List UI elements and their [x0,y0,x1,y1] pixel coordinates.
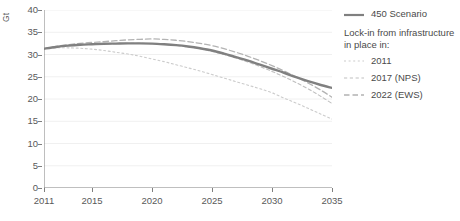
y-tick-mark [38,144,42,145]
y-tick-label: 40 [27,5,38,15]
y-tick-mark [38,99,42,100]
x-tick-mark [152,188,153,192]
x-axis-tick-labels: 201120152020202520302035 [44,193,332,209]
x-tick-label: 2030 [261,196,282,206]
legend-label: 2011 [371,56,391,67]
plot-area [44,10,332,188]
x-tick-label: 2011 [34,196,54,206]
chart-legend: 450 Scenario Lock-in from infrastructure… [344,6,460,104]
legend-item-2011[interactable]: 2011 [344,53,460,70]
emissions-line-chart: Gt 0510152025303540 20112015202020252030… [0,0,460,221]
x-tick-mark [272,188,273,192]
x-tick-label: 2035 [321,196,342,206]
x-tick-label: 2025 [201,196,222,206]
legend-item-2017-nps[interactable]: 2017 (NPS) [344,70,460,87]
y-tick-mark [38,32,42,33]
legend-label: 2022 (EWS) [371,90,423,101]
legend-item-450-scenario[interactable]: 450 Scenario [344,6,460,23]
legend-item-2022-ews[interactable]: 2022 (EWS) [344,87,460,104]
y-tick-mark [38,77,42,78]
legend-heading: Lock-in from infrastructure in place in: [344,27,456,51]
y-tick-mark [38,166,42,167]
legend-label: 2017 (NPS) [371,73,421,84]
legend-lockin-items: 20112017 (NPS)2022 (EWS) [344,53,460,104]
x-tick-label: 2015 [81,196,102,206]
y-tick-label: 15 [27,116,38,126]
legend-label-450-scenario: 450 Scenario [371,9,427,20]
x-tick-mark [92,188,93,192]
x-tick-mark [44,188,45,192]
y-tick-mark [38,121,42,122]
y-axis-tick-labels: 0510152025303540 [0,0,38,221]
x-tick-label: 2020 [141,196,162,206]
y-tick-label: 25 [27,72,38,82]
legend-swatch-dotted-icon [344,56,364,66]
y-tick-mark [38,55,42,56]
y-tick-label: 35 [27,27,38,37]
legend-swatch-solid-icon [344,10,364,20]
y-tick-mark [38,10,42,11]
y-tick-label: 30 [27,50,38,60]
series-line [44,48,332,119]
y-tick-label: 20 [27,94,38,104]
x-tick-mark [332,188,333,192]
legend-swatch-dashed-long-icon [344,90,364,100]
series-line [44,43,332,88]
y-tick-label: 10 [27,139,38,149]
series-lines [44,10,332,188]
x-tick-mark [212,188,213,192]
legend-swatch-dashed-short-icon [344,73,364,83]
y-tick-mark [38,188,42,189]
